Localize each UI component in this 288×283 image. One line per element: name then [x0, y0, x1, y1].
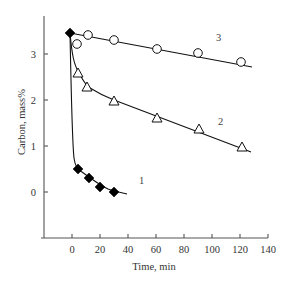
circle-marker	[84, 31, 93, 40]
series-1-label: 1	[139, 175, 144, 186]
triangle-marker	[194, 124, 204, 133]
triangle-marker	[82, 82, 92, 91]
x-tick-label: 60	[151, 244, 162, 255]
diamond-marker	[65, 28, 75, 38]
y-tick-labels: 3 2 1 0	[31, 49, 36, 198]
y-tick-label: 1	[31, 141, 36, 152]
y-tick-label: 2	[31, 95, 36, 106]
circle-marker	[153, 45, 162, 54]
circle-marker	[73, 40, 82, 49]
triangle-marker	[109, 96, 119, 105]
x-tick-label: 140	[260, 244, 276, 255]
y-axis-title: Carbon, mass%	[16, 89, 27, 155]
x-tick-label: 0	[69, 244, 74, 255]
series-1-markers	[65, 28, 119, 197]
circle-marker	[237, 58, 246, 67]
circle-marker	[194, 49, 203, 58]
chart: 3 2 1 0 0 20 40 60 80 100 120 140 Time, …	[0, 0, 288, 283]
diamond-marker	[95, 182, 105, 192]
x-tick-labels: 0 20 40 60 80 100 120 140	[69, 244, 276, 255]
diamond-marker	[109, 187, 119, 197]
series-2-label: 2	[218, 116, 223, 127]
series-3-label: 3	[216, 32, 221, 43]
y-tick-label: 3	[31, 49, 36, 60]
series-2-markers	[73, 68, 247, 151]
triangle-marker	[73, 68, 83, 77]
x-tick-label: 80	[179, 244, 190, 255]
x-tick-label: 20	[95, 244, 106, 255]
circle-marker	[110, 36, 119, 45]
x-tick-label: 100	[204, 244, 220, 255]
y-tick-label: 0	[31, 187, 36, 198]
triangle-marker	[237, 142, 247, 151]
x-tick-label: 120	[232, 244, 248, 255]
diamond-marker	[73, 164, 83, 174]
x-tick-label: 40	[123, 244, 134, 255]
x-axis-title: Time, min	[132, 261, 176, 272]
fit-curves	[70, 33, 252, 194]
